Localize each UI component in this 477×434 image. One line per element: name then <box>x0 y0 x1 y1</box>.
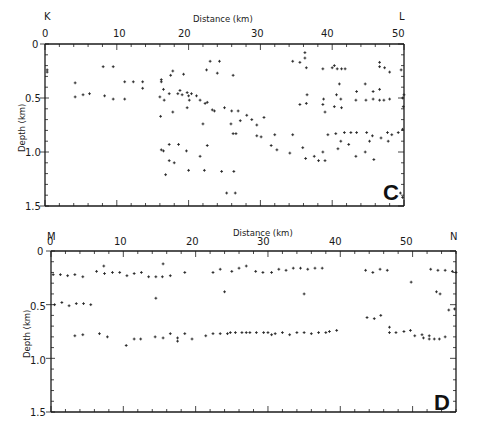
data-point <box>439 293 442 296</box>
data-point <box>270 333 273 336</box>
data-point <box>334 132 337 135</box>
data-point <box>186 91 189 94</box>
data-point <box>303 331 306 334</box>
data-point <box>321 103 324 106</box>
data-point <box>403 93 406 96</box>
data-point <box>123 80 126 83</box>
data-point <box>81 275 84 278</box>
data-point <box>219 332 222 335</box>
data-point <box>164 173 167 176</box>
data-point <box>349 131 352 134</box>
data-point <box>140 271 143 274</box>
data-point <box>239 119 242 122</box>
data-point <box>364 151 367 154</box>
data-point <box>248 331 251 334</box>
data-point <box>238 267 241 270</box>
data-point <box>386 131 389 134</box>
data-point <box>223 106 226 109</box>
data-point <box>169 332 172 335</box>
data-point <box>154 297 157 300</box>
data-point <box>159 115 162 118</box>
plot-frame <box>40 44 404 206</box>
data-point <box>74 96 77 99</box>
data-point <box>365 99 368 102</box>
data-point <box>203 169 206 172</box>
data-point <box>304 57 307 60</box>
data-point <box>255 124 258 127</box>
data-point <box>421 333 424 336</box>
data-points <box>52 262 458 346</box>
data-point <box>354 155 357 158</box>
data-point <box>209 60 212 63</box>
data-point <box>422 337 425 340</box>
data-point <box>181 93 184 96</box>
data-point <box>73 334 76 337</box>
data-point <box>111 271 114 274</box>
data-point <box>73 273 76 276</box>
data-point <box>395 331 398 334</box>
data-point <box>53 303 56 306</box>
data-point <box>202 123 205 126</box>
data-point <box>340 67 343 70</box>
data-point <box>387 140 390 143</box>
data-point <box>335 329 338 332</box>
data-point <box>379 268 382 271</box>
data-point <box>154 335 157 338</box>
data-point <box>331 66 334 69</box>
data-point <box>74 81 77 84</box>
data-point <box>223 290 226 293</box>
data-point <box>435 290 438 293</box>
data-point <box>190 92 193 95</box>
data-point <box>191 338 194 341</box>
data-point <box>338 83 341 86</box>
data-point <box>372 90 375 93</box>
data-point <box>413 334 416 337</box>
endpoint-l-label: L <box>399 11 405 22</box>
data-point <box>262 271 265 274</box>
data-point <box>232 132 235 135</box>
plot-frame <box>46 251 456 412</box>
data-point <box>267 331 270 334</box>
data-point <box>133 338 136 341</box>
data-point <box>176 340 179 343</box>
data-point <box>364 269 367 272</box>
data-point <box>355 90 358 93</box>
data-point <box>176 92 179 95</box>
data-point <box>317 159 320 162</box>
data-point <box>126 274 129 277</box>
y-tick-label: 0 <box>32 39 38 50</box>
data-point <box>364 83 367 86</box>
data-point <box>333 105 336 108</box>
data-point <box>185 150 188 153</box>
data-point <box>183 332 186 335</box>
data-point <box>171 111 174 114</box>
data-point <box>123 98 126 101</box>
data-point <box>339 140 342 143</box>
data-point <box>250 118 253 121</box>
data-point <box>262 331 265 334</box>
data-point <box>380 137 383 140</box>
data-point <box>199 155 202 158</box>
data-point <box>46 71 49 74</box>
data-point <box>274 332 277 335</box>
x-tick-label: 30 <box>257 236 270 247</box>
data-point <box>179 89 182 92</box>
data-point <box>195 94 198 97</box>
data-point <box>225 192 228 195</box>
x-tick-label: 30 <box>251 28 264 39</box>
data-point <box>368 140 371 143</box>
data-point <box>335 93 338 96</box>
data-point <box>291 133 294 136</box>
data-point <box>89 303 92 306</box>
panel-letter-c: C <box>383 180 399 205</box>
data-point <box>299 267 302 270</box>
data-point <box>378 99 381 102</box>
figure: K L Distance (km) Depth (km) 0 10 20 30 … <box>0 0 477 434</box>
data-point <box>382 99 385 102</box>
data-point <box>410 281 413 284</box>
data-point <box>160 78 163 81</box>
data-point <box>182 73 185 76</box>
panel-letter-d: D <box>434 390 450 415</box>
data-point <box>314 267 317 270</box>
data-point <box>169 74 172 77</box>
